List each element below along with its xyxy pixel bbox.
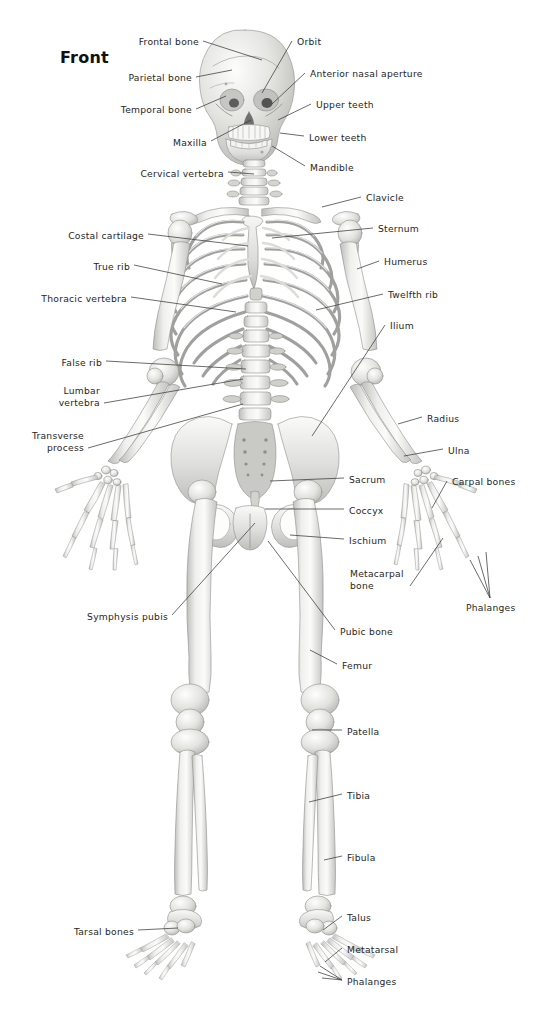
label-femur: Femur — [342, 660, 372, 672]
label-mandible: Mandible — [310, 162, 354, 174]
label-true-rib: True rib — [93, 261, 130, 273]
label-twelfth-rib: Twelfth rib — [388, 289, 438, 301]
label-metatarsal: Metatarsal — [347, 944, 398, 956]
label-symphysis-pubis: Symphysis pubis — [87, 611, 168, 623]
label-orbit: Orbit — [297, 36, 321, 48]
cervical-spine — [227, 158, 282, 210]
leader-radius — [398, 417, 422, 424]
label-phalanges-foot: Phalanges — [347, 976, 397, 988]
label-radius: Radius — [427, 413, 459, 425]
label-transverse-process: Transverse process — [22, 430, 84, 453]
leader-twelfth-rib — [316, 294, 383, 310]
label-pubic-bone: Pubic bone — [340, 626, 393, 638]
label-sternum: Sternum — [378, 223, 419, 235]
label-sacrum: Sacrum — [349, 474, 386, 486]
right-foot — [299, 896, 375, 980]
label-lumbar-vertebra: Lumbar vertebra — [38, 385, 100, 408]
phalanges-brackets — [320, 552, 490, 980]
skull-group — [199, 30, 294, 165]
label-patella: Patella — [347, 726, 380, 738]
label-metacarpal-bone: Metacarpal bone — [350, 568, 412, 591]
label-clavicle: Clavicle — [366, 192, 404, 204]
label-ischium: Ischium — [349, 535, 386, 547]
label-maxilla: Maxilla — [173, 137, 207, 149]
label-frontal-bone: Frontal bone — [139, 36, 199, 48]
spine-column — [223, 302, 289, 420]
label-upper-teeth: Upper teeth — [316, 99, 374, 111]
label-lower-teeth: Lower teeth — [309, 132, 367, 144]
legs — [171, 498, 339, 895]
left-foot — [126, 896, 202, 980]
label-phalanges-hand: Phalanges — [466, 602, 516, 614]
label-anterior-nasal-aperture: Anterior nasal aperture — [310, 68, 423, 80]
left-hand — [55, 466, 138, 570]
leader-clavicle — [322, 197, 361, 207]
figure-title: Front — [60, 48, 109, 67]
label-ilium: Ilium — [390, 320, 414, 332]
label-cervical-vertebra: Cervical vertebra — [140, 168, 224, 180]
label-fibula: Fibula — [347, 852, 376, 864]
label-carpal-bones: Carpal bones — [452, 476, 515, 488]
leader-lower-teeth — [280, 133, 304, 136]
label-ulna: Ulna — [448, 445, 470, 457]
label-thoracic-vertebra: Thoracic vertebra — [41, 293, 127, 305]
label-coccyx: Coccyx — [349, 505, 384, 517]
label-humerus: Humerus — [384, 256, 427, 268]
label-false-rib: False rib — [62, 357, 102, 369]
label-tibia: Tibia — [347, 790, 370, 802]
label-tarsal-bones: Tarsal bones — [74, 926, 134, 938]
label-costal-cartilage: Costal cartilage — [68, 230, 144, 242]
skeleton-diagram — [0, 0, 533, 1032]
label-talus: Talus — [347, 912, 371, 924]
label-temporal-bone: Temporal bone — [121, 104, 192, 116]
leader-mandible — [272, 146, 305, 166]
label-parietal-bone: Parietal bone — [128, 72, 192, 84]
